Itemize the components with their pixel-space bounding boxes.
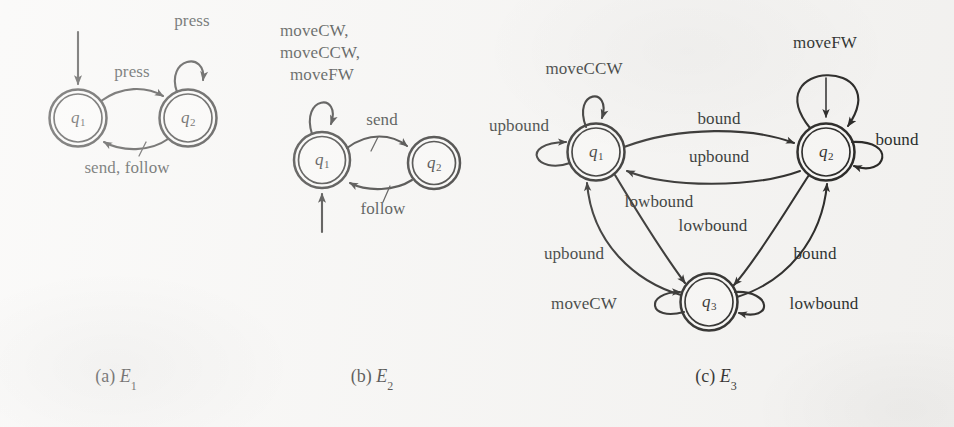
edge-label-a-send-follow: send, follow: [84, 158, 169, 178]
caption-b: (b) E2: [351, 366, 394, 391]
edge-label-c-bound-right: bound: [876, 130, 919, 150]
state-label-c-q2: q2: [819, 142, 833, 162]
edge-label-b-follow: follow: [361, 199, 406, 219]
state-label-a-q1: q1: [71, 108, 85, 128]
edge-label-b-self-line1: moveCW,: [280, 20, 360, 42]
edge-label-b-self-line3: moveFW: [280, 64, 360, 86]
edge-label-c-bound-lower-right: bound: [794, 244, 837, 264]
state-label-b-q1: q1: [315, 150, 329, 170]
edge-label-c-moveccw: moveCCW: [545, 59, 622, 79]
edge-label-c-lowbound-right: lowbound: [679, 216, 748, 236]
edge-label-b-self-line2: moveCCW,: [280, 42, 360, 64]
edge-label-a-press-forward: press: [114, 62, 149, 82]
panel-a-graphics: [50, 32, 217, 156]
edge-label-c-movefw: moveFW: [793, 33, 857, 53]
edge-label-c-lowbound-q3: lowbound: [790, 294, 859, 314]
edge-label-c-upbound-lower-left: upbound: [544, 244, 604, 264]
transition-a-q2-self: [175, 61, 203, 92]
transition-c-q3-q2: [737, 184, 827, 297]
caption-a: (a) E1: [95, 366, 136, 391]
figure-canvas: q1 q2 press press send, follow (a) E1 q1…: [0, 0, 954, 427]
caption-c: (c) E3: [695, 366, 736, 391]
edge-label-c-upbound-left: upbound: [489, 116, 549, 136]
edge-label-c-lowbound-left: lowbound: [625, 192, 694, 212]
transition-c-q2-q1: [627, 171, 800, 184]
transition-a-q2-q1: [104, 139, 168, 156]
state-label-a-q2: q2: [181, 108, 195, 128]
transition-c-q1-q2: [624, 131, 794, 147]
transition-c-q1-self-left: [537, 142, 570, 166]
state-label-c-q3: q3: [702, 292, 716, 312]
state-label-b-q2: q2: [427, 153, 441, 173]
state-label-c-q1: q1: [589, 142, 603, 162]
edge-label-b-send: send: [366, 110, 398, 130]
transition-b-q1-self: [310, 102, 333, 134]
edge-label-a-press-self: press: [174, 11, 209, 31]
transition-b-q1-q2: [347, 137, 407, 152]
edge-label-c-movecw: moveCW: [551, 294, 617, 314]
transition-c-q2-self-top: [797, 75, 858, 128]
edge-label-c-bound-top: bound: [698, 109, 741, 129]
edge-label-b-self-loop: moveCW, moveCCW, moveFW: [280, 20, 360, 86]
edge-label-c-upbound-mid: upbound: [689, 147, 749, 167]
transition-a-q1-q2: [101, 89, 163, 101]
